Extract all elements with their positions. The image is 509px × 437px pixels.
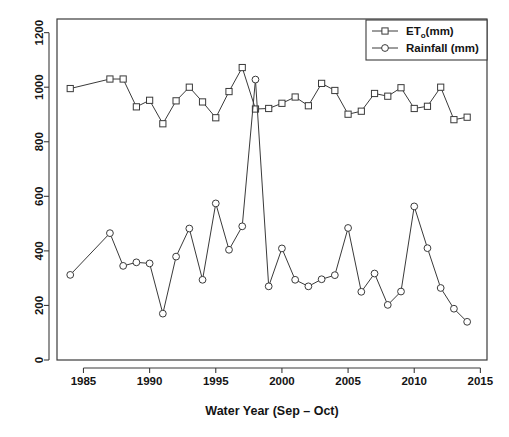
chart-legend: ETo(mm)Rainfall (mm)	[366, 20, 487, 60]
plot-border	[57, 19, 487, 360]
x-axis-tick-label: 1985	[71, 375, 97, 387]
data-point-marker	[252, 76, 259, 83]
x-axis: 1985199019952000200520102015	[71, 368, 494, 387]
data-point-marker	[239, 223, 246, 230]
data-point-marker	[120, 76, 126, 82]
data-point-marker	[107, 230, 114, 237]
data-point-marker	[226, 88, 232, 94]
data-point-marker	[279, 245, 286, 252]
data-point-marker	[226, 246, 233, 253]
data-point-marker	[451, 117, 457, 123]
data-point-marker	[213, 115, 219, 121]
x-axis-tick-label: 2005	[335, 375, 361, 387]
data-point-marker	[146, 260, 153, 267]
data-point-marker	[133, 259, 140, 266]
data-point-marker	[345, 225, 352, 232]
data-point-marker	[120, 262, 127, 269]
data-point-marker	[464, 114, 470, 120]
data-point-marker	[266, 105, 272, 111]
data-point-marker	[305, 103, 311, 109]
data-point-marker	[292, 94, 298, 100]
x-axis-tick-label: 2000	[269, 375, 295, 387]
data-point-marker	[173, 98, 179, 104]
data-point-marker	[305, 283, 312, 290]
series-rainfall	[67, 76, 471, 325]
data-point-marker	[159, 310, 166, 317]
legend-circle-marker-icon	[382, 45, 389, 52]
x-axis-tick-label: 2015	[468, 375, 494, 387]
data-point-marker	[212, 200, 219, 207]
data-point-marker	[67, 85, 73, 91]
data-point-marker	[371, 270, 378, 277]
data-point-marker	[464, 318, 471, 325]
x-axis-tick-label: 1995	[203, 375, 229, 387]
data-point-marker	[438, 84, 444, 90]
data-point-marker	[199, 99, 205, 105]
data-point-marker	[411, 105, 417, 111]
data-point-marker	[319, 80, 325, 86]
data-point-marker	[331, 272, 338, 279]
data-point-marker	[424, 103, 430, 109]
data-point-marker	[384, 301, 391, 308]
y-axis-tick-label: 800	[33, 132, 45, 151]
data-point-marker	[398, 288, 405, 295]
data-point-marker	[332, 87, 338, 93]
data-point-marker	[424, 245, 431, 252]
water-year-eto-rainfall-chart: 020040060080010001200 198519901995200020…	[0, 0, 509, 437]
legend-label: Rainfall (mm)	[406, 42, 479, 54]
data-point-marker	[318, 276, 325, 283]
y-axis-tick-label: 600	[33, 187, 45, 206]
data-point-marker	[451, 305, 458, 312]
y-axis-tick-label: 1200	[33, 20, 45, 46]
x-axis-tick-label: 1990	[137, 375, 163, 387]
series-path	[70, 68, 467, 124]
x-axis-tick-label: 2010	[401, 375, 427, 387]
data-point-marker	[358, 288, 365, 295]
data-point-marker	[67, 271, 74, 278]
data-point-marker	[265, 283, 272, 290]
y-axis-tick-label: 1000	[33, 74, 45, 100]
data-point-marker	[437, 285, 444, 292]
data-point-marker	[385, 93, 391, 99]
y-axis: 020040060080010001200	[33, 20, 49, 363]
data-point-marker	[107, 76, 113, 82]
data-point-marker	[147, 97, 153, 103]
data-point-marker	[199, 276, 206, 283]
data-point-marker	[279, 100, 285, 106]
y-axis-tick-label: 400	[33, 241, 45, 260]
data-point-marker	[133, 104, 139, 110]
data-point-marker	[345, 111, 351, 117]
data-point-marker	[398, 85, 404, 91]
series-layer	[67, 64, 471, 325]
data-point-marker	[411, 203, 418, 210]
data-point-marker	[186, 225, 193, 232]
chart-figure: 020040060080010001200 198519901995200020…	[0, 0, 509, 437]
data-point-marker	[371, 90, 377, 96]
y-axis-tick-label: 0	[33, 357, 45, 363]
data-point-marker	[292, 276, 299, 283]
x-axis-title: Water Year (Sep – Oct)	[205, 404, 338, 418]
data-point-marker	[358, 108, 364, 114]
data-point-marker	[186, 84, 192, 90]
legend-square-marker-icon	[382, 28, 388, 34]
series-eto	[67, 64, 470, 126]
plot-frame	[57, 19, 487, 360]
data-point-marker	[173, 253, 180, 260]
y-axis-tick-label: 200	[33, 296, 45, 315]
data-point-marker	[239, 64, 245, 70]
data-point-marker	[160, 121, 166, 127]
